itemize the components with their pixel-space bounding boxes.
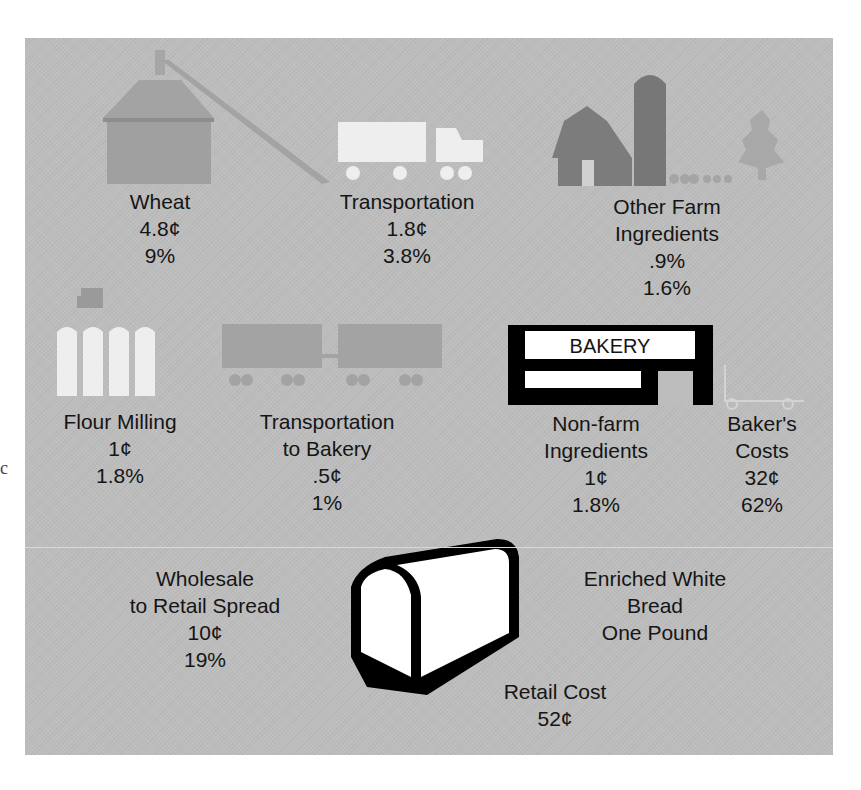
stage-bakers-costs: Baker's Costs 32¢ 62% [727,410,796,518]
stage-other-farm-ingredients: Other Farm Ingredients .9% 1.6% [613,193,720,301]
hand-cart-icon [722,365,806,413]
stage-flour-milling: Flour Milling 1¢ 1.8% [63,408,176,489]
retail-cost: Retail Cost 52¢ [504,678,607,732]
flour-mill-icon [55,288,165,398]
infographic-panel: BAKERY Wheat 4.8¢ 9% Transportation 1.8¢… [25,38,833,755]
page-edge-fragment: c [0,458,8,479]
stage-non-farm-ingredients: Non-farm Ingredients 1¢ 1.8% [544,410,648,518]
bread-loaf-icon [347,537,527,702]
bakery-sign: BAKERY [570,333,651,360]
tractor-trailer-icon [222,324,444,390]
stage-wheat: Wheat 4.8¢ 9% [130,188,191,269]
stage-transportation-to-bakery: Transportation to Bakery .5¢ 1% [260,408,395,516]
stage-wholesale-to-retail-spread: Wholesale to Retail Spread 10¢ 19% [130,565,281,673]
product-label: Enriched White Bread One Pound [584,565,726,646]
barn-silo-icon [552,66,812,191]
stage-transportation: Transportation 1.8¢ 3.8% [340,188,475,269]
truck-icon [338,122,483,184]
section-divider [25,547,833,548]
